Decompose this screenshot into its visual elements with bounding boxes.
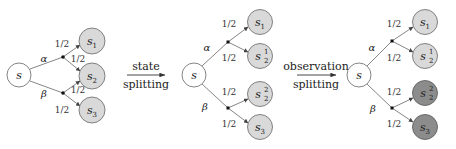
- prob-label: 1/2: [222, 87, 236, 97]
- state-label-s2-1-sup: 1: [429, 48, 433, 56]
- arrow-caption-line1: observation: [283, 60, 349, 73]
- state-label-s2-1: s: [255, 50, 261, 63]
- prob-label: 1/2: [222, 19, 236, 29]
- state-label-s2-1-sub: 2: [429, 57, 433, 65]
- edge-alpha-s2-1: [228, 42, 248, 52]
- diagram-observation-split: s α β 1/2 1/2 1/2 1/2 s1 s 1 2 s 2 2 s3: [347, 10, 438, 140]
- choice-dot-beta: [391, 107, 394, 110]
- action-label-beta: β: [40, 88, 47, 99]
- action-label-alpha: α: [369, 42, 376, 53]
- action-label-alpha: α: [41, 53, 48, 64]
- state-label-s2-2: s: [255, 88, 261, 101]
- prob-label: 1/2: [387, 53, 401, 63]
- state-label-s2-2-sup: 2: [264, 86, 268, 94]
- diagram-original: s α β 1/2 1/2 1/2 1/2 s1 s2 s3: [7, 28, 105, 123]
- choice-dot-beta: [227, 107, 230, 110]
- prob-label: 1/2: [55, 39, 69, 49]
- edge-beta-s2-2: [228, 99, 248, 108]
- state-label-s2-2: s: [420, 87, 426, 100]
- arrow-caption-line2: splitting: [123, 78, 169, 91]
- prob-label: 1/2: [387, 19, 401, 29]
- action-label-alpha: α: [204, 42, 211, 53]
- state-label-s2-2-sup: 2: [429, 85, 433, 93]
- prob-label: 1/2: [387, 87, 401, 97]
- action-label-beta: β: [369, 103, 376, 114]
- arrow-caption-line1: state: [132, 60, 160, 73]
- edge-alpha-s1: [392, 27, 413, 41]
- state-label-s2-2-sub: 2: [264, 95, 268, 103]
- prob-label: 1/2: [71, 85, 85, 95]
- edge-alpha-s2-1: [392, 41, 413, 52]
- edge-beta-s2-2: [392, 98, 413, 108]
- diagram-state-split: s α β 1/2 1/2 1/2 1/2 s1 s 1 2 s 2 2 s3: [182, 10, 273, 140]
- state-label-s: s: [191, 69, 197, 82]
- prob-label: 1/2: [222, 53, 236, 63]
- state-label-s2-1-sup: 1: [264, 48, 268, 56]
- prob-label: 1/2: [387, 119, 401, 129]
- choice-dot-beta: [61, 91, 65, 95]
- prob-label: 1/2: [222, 119, 236, 129]
- state-splitting-arrow: state splitting: [123, 60, 169, 91]
- prob-label: 1/2: [71, 54, 85, 64]
- choice-dot-alpha: [61, 55, 65, 59]
- arrow-caption-line2: splitting: [293, 78, 339, 91]
- state-label-s: s: [16, 69, 22, 82]
- action-label-beta: β: [201, 101, 208, 112]
- edge-alpha-s1: [228, 27, 248, 42]
- splitting-diagram: s α β 1/2 1/2 1/2 1/2 s1 s2 s3 state spl…: [0, 0, 456, 149]
- state-label-s: s: [356, 69, 362, 82]
- choice-dot-alpha: [391, 40, 394, 43]
- choice-dot-alpha: [227, 41, 230, 44]
- observation-splitting-arrow: observation splitting: [283, 60, 349, 91]
- state-label-s2-1-sub: 2: [264, 57, 268, 65]
- state-label-s2-1: s: [420, 50, 426, 63]
- state-label-s2-2-sub: 2: [429, 94, 433, 102]
- prob-label: 1/2: [55, 105, 69, 115]
